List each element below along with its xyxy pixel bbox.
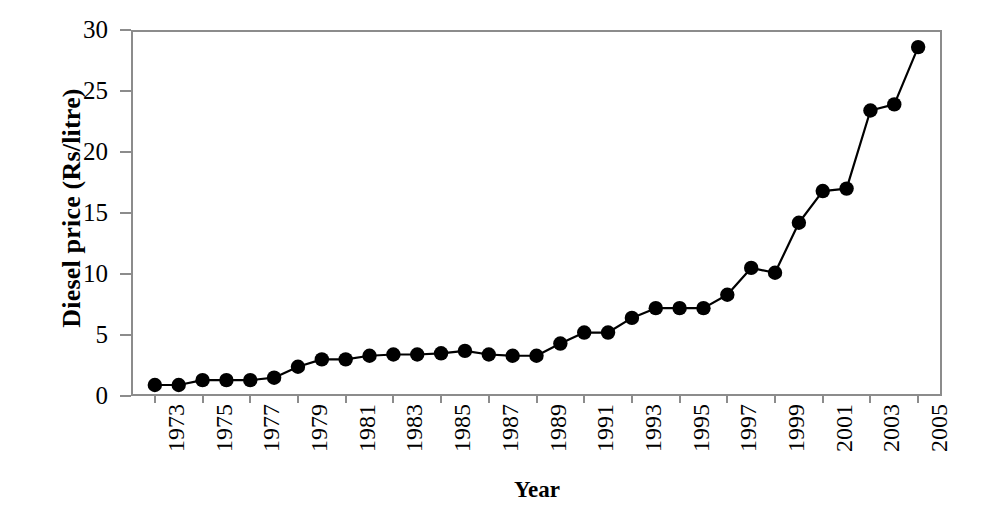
y-tick-mark	[120, 334, 131, 336]
data-point-marker: 1986: 3.7	[458, 344, 472, 358]
x-tick-mark	[631, 396, 633, 403]
data-point-marker: 1975: 1.3	[195, 373, 209, 387]
x-tick-mark	[869, 396, 871, 403]
y-tick-label: 20	[48, 139, 108, 164]
x-tick-mark	[488, 396, 490, 403]
x-tick-mark	[202, 396, 204, 403]
data-point-marker: 1983: 3.4	[386, 347, 400, 361]
data-point-marker: 1974: 0.9	[172, 378, 186, 392]
series-line	[155, 47, 918, 385]
data-point-marker: 1980: 3	[315, 352, 329, 366]
data-point-marker: 1998: 10.5	[744, 261, 758, 275]
data-point-marker: 1990: 4.3	[553, 336, 567, 350]
x-tick-mark	[917, 396, 919, 403]
x-tick-mark	[249, 396, 251, 403]
y-tick-label: 0	[48, 383, 108, 408]
data-point-marker: 1994: 7.2	[649, 301, 663, 315]
data-point-marker: 1982: 3.3	[362, 349, 376, 363]
y-tick-mark	[120, 90, 131, 92]
data-point-marker: 2002: 17	[839, 181, 853, 195]
data-point-marker: 1985: 3.5	[434, 346, 448, 360]
y-tick-label: 15	[48, 200, 108, 225]
y-tick-mark	[120, 395, 131, 397]
data-point-marker: 1981: 3	[338, 352, 352, 366]
y-tick-mark	[120, 151, 131, 153]
data-point-marker: 1984: 3.4	[410, 347, 424, 361]
x-tick-mark	[440, 396, 442, 403]
y-tick-label: 30	[48, 17, 108, 42]
x-axis-title: Year	[131, 477, 943, 503]
x-tick-mark	[297, 396, 299, 403]
y-tick-mark	[120, 273, 131, 275]
data-point-marker: 1996: 7.2	[696, 301, 710, 315]
data-point-marker: 1988: 3.3	[505, 349, 519, 363]
data-point-marker: 1993: 6.4	[625, 311, 639, 325]
data-point-marker: 1987: 3.4	[482, 347, 496, 361]
data-point-marker: 2004: 23.9	[887, 97, 901, 111]
data-point-marker: 2005: 28.6	[911, 40, 925, 54]
y-tick-label: 5	[48, 322, 108, 347]
x-tick-mark	[583, 396, 585, 403]
x-tick-mark	[822, 396, 824, 403]
x-tick-mark	[726, 396, 728, 403]
data-point-marker: 2001: 16.8	[816, 184, 830, 198]
x-tick-mark	[679, 396, 681, 403]
data-point-marker: 1991: 5.2	[577, 325, 591, 339]
data-point-marker: 1999: 10.1	[768, 266, 782, 280]
data-point-marker: 1978: 1.5	[267, 371, 281, 385]
y-tick-mark	[120, 29, 131, 31]
data-point-marker: 1995: 7.2	[672, 301, 686, 315]
y-tick-mark	[120, 212, 131, 214]
chart-figure: Diesel price (Rs/litre) 1973: 0.91974: 0…	[0, 0, 983, 515]
data-point-marker: 1976: 1.3	[219, 373, 233, 387]
x-tick-mark	[345, 396, 347, 403]
data-point-marker: 1989: 3.3	[529, 349, 543, 363]
line-series-plot: 1973: 0.91974: 0.91975: 1.31976: 1.31977…	[131, 30, 942, 396]
data-point-marker: 1979: 2.4	[291, 360, 305, 374]
x-tick-mark	[154, 396, 156, 403]
data-point-marker: 2000: 14.2	[792, 216, 806, 230]
x-tick-mark	[774, 396, 776, 403]
y-tick-label: 25	[48, 78, 108, 103]
y-tick-label: 10	[48, 261, 108, 286]
data-point-marker: 1973: 0.9	[148, 378, 162, 392]
data-point-marker: 1997: 8.3	[720, 288, 734, 302]
x-tick-mark	[536, 396, 538, 403]
data-point-marker: 1992: 5.2	[601, 325, 615, 339]
data-point-marker: 1977: 1.3	[243, 373, 257, 387]
data-point-marker: 2003: 23.4	[863, 103, 877, 117]
x-tick-mark	[392, 396, 394, 403]
